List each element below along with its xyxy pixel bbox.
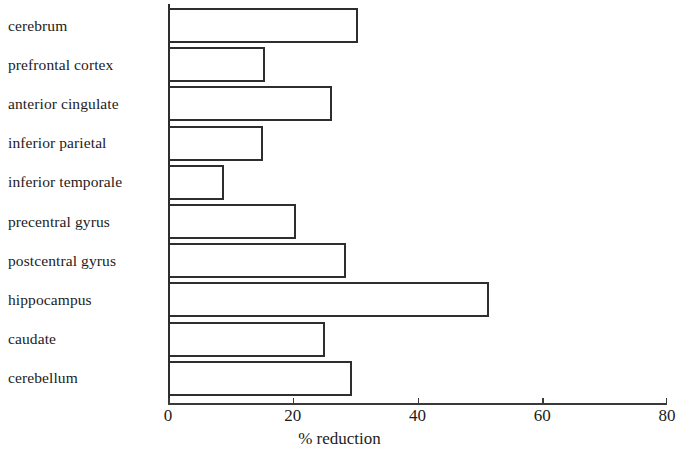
bar: [168, 8, 358, 43]
category-label: hippocampus: [8, 292, 158, 308]
bar: [168, 282, 489, 317]
bar: [168, 361, 352, 396]
x-axis-tick-label: 60: [534, 407, 551, 424]
x-axis-tick-label: 80: [659, 407, 676, 424]
bar: [168, 204, 296, 239]
x-axis-tick-label: 0: [164, 407, 173, 424]
category-label: prefrontal cortex: [8, 57, 158, 73]
category-label: cerebrum: [8, 18, 158, 34]
x-axis-tick: [418, 398, 420, 405]
bar: [168, 165, 224, 200]
x-axis-tick: [168, 398, 170, 405]
category-label-column: cerebrumprefrontal cortexanterior cingul…: [0, 0, 160, 404]
x-axis-tick-label: 20: [284, 407, 301, 424]
category-label: inferior temporale: [8, 174, 158, 190]
x-axis-title: % reduction: [0, 430, 679, 447]
category-label: cerebellum: [8, 370, 158, 386]
category-label: anterior cingulate: [8, 96, 158, 112]
category-label: precentral gyrus: [8, 214, 158, 230]
bar: [168, 322, 325, 357]
x-axis-tick: [666, 398, 668, 405]
category-label: postcentral gyrus: [8, 253, 158, 269]
x-axis-tick-label: 40: [409, 407, 426, 424]
x-axis-tick: [542, 398, 544, 405]
plot-area: 020406080: [168, 0, 667, 404]
bar: [168, 243, 346, 278]
category-label: caudate: [8, 331, 158, 347]
bar: [168, 126, 263, 161]
bar: [168, 47, 265, 82]
category-label: inferior parietal: [8, 135, 158, 151]
bar: [168, 86, 332, 121]
x-axis-tick: [293, 398, 295, 405]
bar-chart: cerebrumprefrontal cortexanterior cingul…: [0, 0, 679, 458]
